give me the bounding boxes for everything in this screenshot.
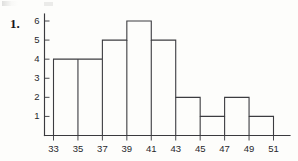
x-tick-label: 39 [122,143,133,154]
histogram-chart: 123456 33353739414345474951 [0,0,298,161]
x-tick-label: 49 [244,143,255,154]
x-tick-label: 33 [48,143,59,154]
x-tick-label: 45 [195,143,206,154]
y-tick-label: 6 [34,15,39,26]
x-tick-label: 41 [146,143,157,154]
histogram-outline [54,21,274,136]
y-tick-label: 2 [34,91,39,102]
y-tick-label: 3 [34,72,39,83]
y-tick-label: 4 [34,53,39,64]
x-tick-label: 35 [73,143,84,154]
x-axis-ticks: 33353739414345474951 [48,136,279,154]
x-tick-label: 47 [219,143,230,154]
x-tick-label: 51 [268,143,279,154]
histogram-bars [54,21,274,136]
histogram-figure: 1. 123456 33353739414345474951 [0,0,298,161]
y-axis-ticks: 123456 [34,15,49,121]
x-tick-label: 37 [97,143,108,154]
y-tick-label: 1 [34,110,39,121]
y-tick-label: 5 [34,34,39,45]
x-tick-label: 43 [170,143,181,154]
